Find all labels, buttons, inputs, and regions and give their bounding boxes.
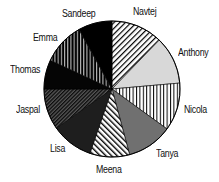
label-nicola: Nicola (184, 104, 207, 115)
label-emma: Emma (33, 32, 57, 43)
pie-slices (44, 21, 180, 157)
label-lisa: Lisa (50, 143, 65, 154)
label-jaspal: Jaspal (16, 104, 40, 115)
label-meena: Meena (96, 164, 122, 175)
label-navtej: Navtej (133, 6, 156, 17)
label-tanya: Tanya (156, 148, 178, 159)
pie-chart (0, 0, 219, 182)
label-thomas: Thomas (10, 64, 40, 75)
label-anthony: Anthony (178, 47, 208, 58)
label-sandeep: Sandeep (62, 8, 95, 19)
